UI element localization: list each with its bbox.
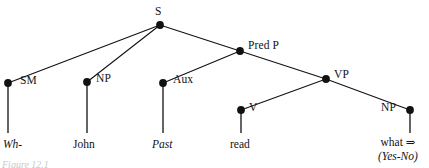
leaf-label-read: read	[230, 138, 250, 151]
edge-s-to-predp	[160, 25, 240, 51]
leaf-label-what-yes-no: what ⇒ (Yes-No)	[378, 136, 418, 163]
leaf-label-john: John	[73, 138, 95, 151]
figure-caption: Figure 12.1	[2, 159, 49, 168]
tree-stems	[8, 82, 410, 133]
tree-diagram-canvas	[0, 0, 429, 168]
syntax-tree-figure: S Pred P SM NP Aux VP V NP Wh- John Past…	[0, 0, 429, 168]
node-dot-sm	[4, 79, 12, 87]
node-dot-predp	[236, 47, 244, 55]
node-label-pred-p: Pred P	[248, 39, 279, 51]
tree-node-dots	[4, 21, 414, 114]
node-label-np-subject: NP	[96, 72, 111, 84]
leaf-label-wh: Wh-	[3, 138, 22, 151]
node-label-vp: VP	[334, 68, 349, 80]
leaf-label-yes-no: (Yes-No)	[378, 150, 418, 164]
edge-vp-to-np2	[326, 79, 410, 110]
node-label-np-object: NP	[381, 101, 396, 113]
node-dot-aux	[159, 79, 167, 87]
tree-edges	[8, 25, 410, 110]
node-label-v: V	[249, 101, 257, 113]
node-dot-np2	[406, 106, 414, 114]
node-dot-s	[156, 21, 164, 29]
node-label-aux: Aux	[173, 73, 193, 85]
leaf-label-past: Past	[152, 138, 172, 151]
leaf-label-what: what ⇒	[378, 136, 418, 150]
node-dot-np1	[83, 78, 91, 86]
node-dot-v	[237, 106, 245, 114]
node-label-s: S	[155, 5, 162, 17]
node-dot-vp	[322, 75, 330, 83]
edge-predp-to-vp	[240, 51, 326, 79]
node-label-sm: SM	[20, 74, 37, 86]
